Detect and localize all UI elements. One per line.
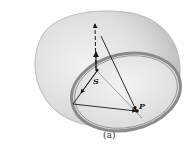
label-s: S: [93, 76, 99, 86]
figure-caption: (a): [103, 130, 115, 140]
diagram-canvas: S P: [0, 0, 193, 159]
point-s: [95, 68, 98, 71]
label-p: P: [138, 101, 146, 111]
